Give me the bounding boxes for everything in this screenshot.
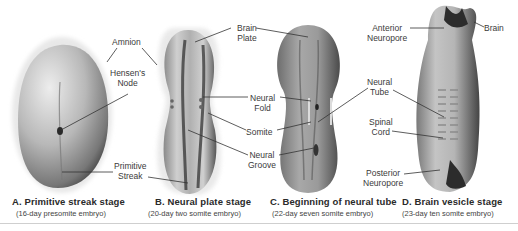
label-spinal-cord: Spinal Cord <box>369 117 393 137</box>
label-primitive-streak-line2: Streak <box>114 171 147 181</box>
label-posterior-neuropore-line1: Posterior <box>363 168 403 178</box>
caption-title-c: C. Beginning of neural tube <box>270 196 397 207</box>
caption-subtitle-b: (20-day two somite embryo) <box>148 209 241 218</box>
label-hensens-node-line1: Hensen's <box>110 68 145 78</box>
label-somite: Somite <box>246 127 272 137</box>
label-spinal-cord-line1: Spinal <box>369 117 393 127</box>
label-hensens-node-line2: Node <box>110 78 145 88</box>
label-brain-plate-line2: Plate <box>237 33 257 43</box>
label-amnion: Amnion <box>112 37 141 47</box>
caption-title-a: A. Primitive streak stage <box>12 196 125 207</box>
embryo-c <box>277 25 340 193</box>
label-neural-tube: Neural Tube <box>367 77 392 97</box>
label-neural-fold: Neural Fold <box>250 93 275 113</box>
label-primitive-streak: Primitive Streak <box>114 161 147 181</box>
label-brain-plate-line1: Brain <box>237 23 257 33</box>
label-spinal-cord-line2: Cord <box>369 127 393 137</box>
embryo-a <box>12 37 112 193</box>
label-neural-groove: Neural Groove <box>248 150 276 170</box>
embryo-d <box>416 6 479 192</box>
label-anterior-neuropore: Anterior Neuropore <box>367 23 407 43</box>
label-primitive-streak-line1: Primitive <box>114 161 147 171</box>
caption-title-b: B. Neural plate stage <box>155 196 251 207</box>
label-neural-groove-line2: Groove <box>248 160 276 170</box>
embryo-b <box>157 28 221 195</box>
label-neural-tube-line2: Tube <box>367 87 392 97</box>
bottom-divider <box>0 223 518 224</box>
label-hensens-node: Hensen's Node <box>110 68 145 88</box>
label-neural-fold-line1: Neural <box>250 93 275 103</box>
caption-subtitle-c: (22-day seven somite embryo) <box>272 209 373 218</box>
caption-subtitle-a: (16-day presomite embryo) <box>16 209 106 218</box>
label-neural-tube-line1: Neural <box>367 77 392 87</box>
caption-subtitle-d: (23-day ten somite embryo) <box>402 209 494 218</box>
label-brain-plate: Brain Plate <box>237 23 257 43</box>
label-posterior-neuropore-line2: Neuropore <box>363 178 403 188</box>
label-posterior-neuropore: Posterior Neuropore <box>363 168 403 188</box>
label-brain: Brain <box>484 23 504 33</box>
label-anterior-neuropore-line1: Anterior <box>367 23 407 33</box>
label-anterior-neuropore-line2: Neuropore <box>367 33 407 43</box>
label-neural-fold-line2: Fold <box>250 103 275 113</box>
label-neural-groove-line1: Neural <box>248 150 276 160</box>
caption-title-d: D. Brain vesicle stage <box>402 196 502 207</box>
